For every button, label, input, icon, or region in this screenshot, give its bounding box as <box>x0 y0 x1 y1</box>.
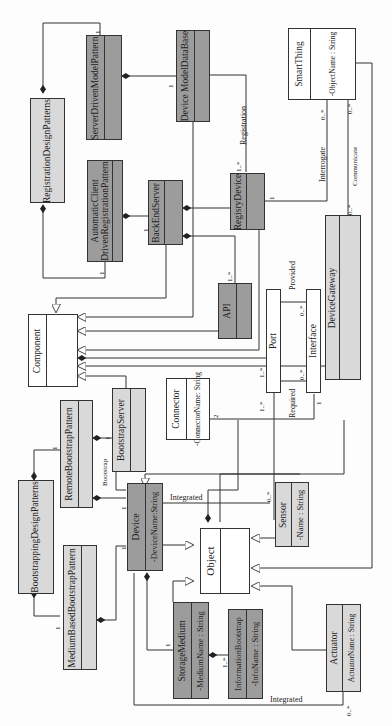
class-name-pane: BootstrappingDesignPatterns <box>19 481 53 593</box>
class-attribute-pane <box>237 284 251 338</box>
class-registry-device[interactable]: RegisryDevice <box>230 173 265 230</box>
class-name: Device ModelDataBase <box>181 31 191 121</box>
mult-interface-required: 0..* <box>298 370 306 381</box>
class-attribute-pane <box>247 174 264 229</box>
class-name-pane: Sensor <box>276 483 292 546</box>
label-provided: Provided <box>288 261 297 290</box>
mult-smart-thing-communicate: 0..* <box>346 104 354 115</box>
class-name: RegisryDevice <box>234 173 244 229</box>
class-name-pane: StorageMedium <box>174 603 192 698</box>
mult-device-gateway-top: 0..* <box>346 205 354 216</box>
class-device-model-database[interactable]: Device ModelDataBase <box>176 30 210 122</box>
class-api[interactable]: API <box>218 283 252 339</box>
class-name-pane: API <box>219 284 237 338</box>
class-registration-design-patterns[interactable]: RegistrationDesignPatterns <box>30 98 65 203</box>
class-name: API <box>223 303 233 318</box>
class-attribute-pane <box>165 181 182 244</box>
class-name-pane: RegistrationDesignPatterns <box>31 99 64 202</box>
class-name: Component <box>33 328 43 372</box>
class-sensor[interactable]: Sensor -Name : String <box>275 482 309 547</box>
class-server-driven-model-pattern[interactable]: ServerDrivenModelPattern <box>86 35 122 140</box>
class-name-pane: Object <box>201 529 221 593</box>
class-attribute-pane <box>340 216 360 379</box>
class-actuator[interactable]: Actuator ActuatorName : String <box>326 604 361 692</box>
class-attribute: -ConnectorName: String <box>194 372 202 446</box>
class-attribute-pane <box>131 389 145 471</box>
class-attribute: ActuatorName : String <box>348 614 356 682</box>
class-name-pane: DeviceGateway <box>326 216 340 379</box>
class-device[interactable]: Device -DeviceName:String <box>127 483 163 571</box>
mult-api: 1..* <box>226 272 234 283</box>
class-name: BootstrapServer <box>117 399 127 461</box>
class-attribute-pane: -ObjectName : String <box>311 29 355 99</box>
class-name-pane: Device ModelDataBase <box>177 31 195 121</box>
mult-registry-device-top: 1..* <box>235 162 243 173</box>
mult-medium-based: 1 <box>54 627 62 631</box>
mult-registry-device-right: 1 <box>268 197 276 201</box>
class-name-pane: Device <box>128 484 146 570</box>
class-name-pane: BootstrapServer <box>113 389 131 471</box>
class-name-pane: RemoteBootstrapPattern <box>61 401 79 507</box>
uml-diagram-canvas: RegistrationDesignPatterns ServerDrivenM… <box>0 0 392 726</box>
class-connector[interactable]: Connector -ConnectorName: String <box>166 378 210 440</box>
class-name-pane: ServerDrivenModelPattern <box>87 36 105 139</box>
class-information-bootstrap[interactable]: InformationBootstrap -InfoName : String <box>228 609 263 699</box>
class-attribute-pane: ActuatorName : String <box>343 605 360 691</box>
class-name-pane: Component <box>29 315 47 386</box>
class-attribute-pane <box>105 36 121 139</box>
class-port[interactable]: Port <box>266 289 281 393</box>
mult-actuator-integrated: 0..* <box>345 706 353 717</box>
class-bootstrap-server[interactable]: BootstrapServer <box>112 388 146 472</box>
class-attribute: -Name : String <box>296 489 305 540</box>
class-attribute-pane <box>47 315 77 386</box>
class-name: ServerDrivenModelPattern <box>91 36 101 139</box>
class-name-pane: SmartThing <box>289 29 311 99</box>
mult-port-left: 1..* <box>258 368 266 379</box>
class-name: StorageMedium <box>178 620 188 681</box>
class-name-pane: InformationBootstrap <box>229 610 247 698</box>
class-component[interactable]: Component <box>28 314 78 387</box>
class-name: InformationBootstrap <box>233 617 242 691</box>
class-storage-medium[interactable]: StorageMedium -MediumName : String <box>173 602 209 699</box>
class-back-end-server[interactable]: BackEndServer <box>148 180 183 245</box>
mult-device-medium: 1 <box>120 547 128 551</box>
class-medium-based-bootstrap-pattern[interactable]: MediumBasedBootstrapPattern <box>63 545 97 670</box>
class-name: Port <box>269 333 279 349</box>
class-attribute: -ObjectName : String <box>329 32 337 97</box>
class-smart-thing[interactable]: SmartThing -ObjectName : String <box>288 28 356 100</box>
mult-bootstrap-server: 1 <box>104 437 112 441</box>
mult-interface-provided: 0..* <box>298 306 306 317</box>
mult-automatic-client-bottom: 1 <box>98 272 106 276</box>
class-remote-bootstrap-pattern[interactable]: RemoteBootstrapPattern <box>60 400 93 508</box>
class-name: BackEndServer <box>152 183 162 243</box>
class-bootstrapping-design-patterns[interactable]: BootstrappingDesignPatterns <box>18 480 54 594</box>
class-automatic-client-driven-registration-pattern[interactable]: AutomaticClientDrivenRegistrationPattern <box>87 160 123 262</box>
class-name: Interface <box>309 324 319 358</box>
mult-device-bootstrap: 1 <box>120 507 128 511</box>
class-interface[interactable]: Interface <box>306 289 321 393</box>
class-name: Object <box>205 546 217 575</box>
label-integrated-sensor: Integrated <box>170 493 202 502</box>
class-attribute-pane: -InfoName : String <box>247 610 262 698</box>
class-device-gateway[interactable]: DeviceGateway <box>325 215 361 380</box>
class-attribute-pane <box>79 401 92 507</box>
label-communicate: Communicate <box>351 147 359 186</box>
class-name: Actuator <box>330 631 340 664</box>
class-name: RegistrationDesignPatterns <box>43 99 53 203</box>
class-name-pane: Port <box>267 290 280 392</box>
label-registration: Registration <box>239 106 248 145</box>
class-attribute-pane <box>82 546 96 669</box>
class-name-pane: AutomaticClientDrivenRegistrationPattern <box>88 161 113 261</box>
mult-remote-bootstrap: 1 <box>51 447 59 451</box>
class-name-pane: Connector <box>167 379 187 439</box>
label-required: Required <box>288 389 297 418</box>
mult-server-driven-top: 1 <box>94 31 102 35</box>
class-attribute-pane <box>195 31 209 121</box>
class-name: Sensor <box>279 502 289 528</box>
class-name-line2: DrivenRegistrationPattern <box>100 161 110 261</box>
class-name: MediumBasedBootstrapPattern <box>68 548 78 667</box>
class-name-pane: RegisryDevice <box>231 174 247 229</box>
class-object[interactable]: Object <box>200 528 250 594</box>
class-name-pane: Interface <box>307 290 320 392</box>
mult-interface-bottom: 1 <box>315 402 323 406</box>
